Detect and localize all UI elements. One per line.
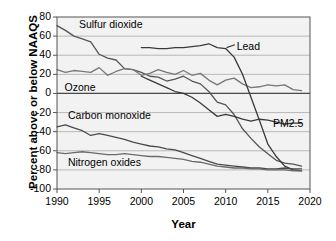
y-tick-label-60: 60 (23, 29, 51, 41)
x-tick-label-1995: 1995 (79, 195, 119, 207)
y-tick-label--100: -100 (23, 182, 51, 194)
x-tick-label-2015: 2015 (248, 195, 288, 207)
y-tick-label--60: -60 (23, 144, 51, 156)
y-tick-label-40: 40 (23, 48, 51, 60)
series-label-sulfur-dioxide: Sulfur dioxide (79, 18, 143, 30)
x-tick-label-2010: 2010 (206, 195, 246, 207)
series-label-nitrogen-oxides: Nitrogen oxides (68, 156, 141, 168)
y-tick-label--40: -40 (23, 125, 51, 137)
y-tick-label--20: -20 (23, 106, 51, 118)
x-tick-label-1990: 1990 (37, 195, 77, 207)
x-tick-label-2005: 2005 (164, 195, 204, 207)
x-tick-label-2020: 2020 (290, 195, 330, 207)
series-label-pm2-5: PM2.5 (273, 117, 303, 129)
series-label-carbon-monoxide: Carbon monoxide (68, 109, 151, 121)
y-tick-label-20: 20 (23, 67, 51, 79)
y-tick-label-80: 80 (23, 10, 51, 22)
x-axis-title: Year (57, 218, 310, 230)
x-tick-label-2000: 2000 (121, 195, 161, 207)
y-tick-label-0: 0 (23, 86, 51, 98)
series-label-lead: Lead (237, 40, 260, 52)
chart-figure: Percent above or below NAAQS Year 806040… (0, 0, 336, 241)
series-label-ozone: Ozone (65, 81, 96, 93)
y-tick-label--80: -80 (23, 163, 51, 175)
